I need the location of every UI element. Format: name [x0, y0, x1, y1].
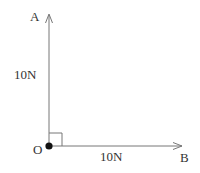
label-force-ob: 10N: [100, 150, 122, 163]
label-force-oa: 10N: [14, 68, 36, 81]
diagram-canvas: [0, 0, 200, 173]
origin-point-icon: [45, 142, 52, 149]
force-diagram: A 10N O 10N B: [0, 0, 200, 173]
label-point-b: B: [180, 151, 189, 164]
label-point-a: A: [30, 10, 39, 23]
label-point-o: O: [33, 143, 42, 156]
